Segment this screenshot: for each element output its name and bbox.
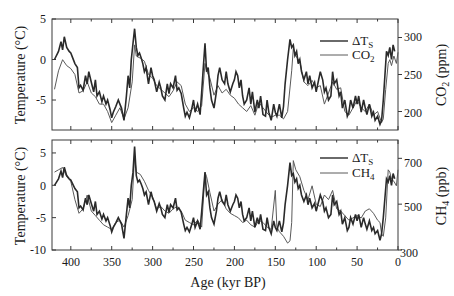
top-y-tick-label: 0 — [40, 53, 46, 67]
top-y-ticks — [52, 19, 56, 100]
top-right-y-tick-label: 300 — [404, 30, 422, 44]
bottom-y-axis-label: Temperature (°C) — [13, 147, 29, 246]
top-legend: ΔTS CO2 — [320, 33, 375, 64]
top-y-axis-label: Temperature (°C) — [13, 26, 29, 125]
bottom-y-tick-label: 5 — [40, 146, 46, 160]
bottom-right-y-tick-label: 700 — [404, 156, 422, 170]
x-tick-label: 300 — [144, 255, 162, 269]
x-tick-label: 250 — [185, 255, 203, 269]
ice-core-chart: 5 0 -5 300 250 200 Temperature (°C) CO2 … — [0, 0, 454, 296]
top-right-y-ticks — [398, 38, 402, 112]
x-tick-label: 350 — [103, 255, 121, 269]
top-right-y-axis-label: CO2 (ppm) — [434, 44, 451, 107]
bottom-y-tick-label: -10 — [30, 243, 46, 257]
top-y-tick-label: 5 — [40, 12, 46, 26]
x-tick-label: 0 — [395, 255, 401, 269]
bottom-y-tick-label: -5 — [36, 211, 46, 225]
bottom-right-y-tick-label: 500 — [404, 200, 422, 214]
bottom-panel: 5 0 -5 -10 700 500 300 400 350 300 250 2… — [13, 140, 451, 291]
bottom-y-tick-label: 0 — [40, 179, 46, 193]
top-panel: 5 0 -5 300 250 200 Temperature (°C) CO2 … — [13, 12, 451, 130]
x-tick-label: 400 — [62, 255, 80, 269]
top-right-y-tick-label: 250 — [404, 68, 422, 82]
bottom-legend: ΔTS CH4 — [320, 150, 375, 182]
bottom-y-ticks — [52, 153, 56, 250]
top-y-tick-label: -5 — [36, 93, 46, 107]
top-temperature-series-line — [55, 29, 395, 125]
bottom-right-y-ticks — [398, 158, 402, 250]
x-tick-label: 150 — [267, 255, 285, 269]
x-tick-labels: 400 350 300 250 200 150 100 50 0 — [62, 255, 401, 269]
bottom-x-ticks — [71, 140, 398, 250]
bottom-right-y-tick-label: 300 — [400, 246, 418, 260]
legend-label-ch4: CH4 — [352, 165, 375, 182]
x-tick-label: 200 — [226, 255, 244, 269]
chart-canvas: 5 0 -5 300 250 200 Temperature (°C) CO2 … — [0, 0, 454, 296]
bottom-plot-frame — [52, 140, 398, 250]
x-tick-label: 50 — [351, 255, 363, 269]
bottom-right-y-axis-label: CH4 (ppb) — [434, 167, 451, 226]
x-axis-label: Age (kyr BP) — [190, 275, 266, 291]
x-tick-label: 100 — [308, 255, 326, 269]
top-right-y-tick-label: 200 — [404, 106, 422, 120]
